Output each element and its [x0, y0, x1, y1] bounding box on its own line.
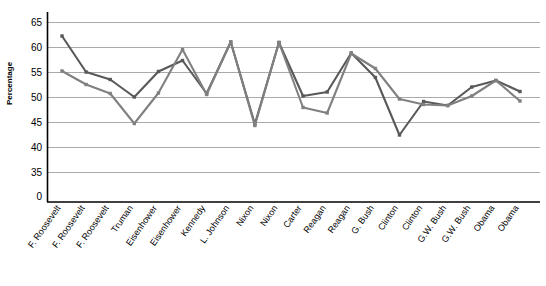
data-series-layer	[60, 34, 521, 136]
series-line	[62, 42, 520, 126]
y-axis-tick-label: 40	[31, 142, 43, 153]
y-axis-tick-label: 50	[31, 92, 43, 103]
x-axis-tick-label: Carter	[281, 203, 304, 229]
data-point-marker	[470, 85, 473, 88]
data-point-marker	[277, 41, 280, 44]
data-point-marker	[84, 83, 87, 86]
data-point-marker	[133, 122, 136, 125]
y-axis-ticks: 035404550556065	[31, 17, 43, 202]
data-point-marker	[109, 92, 112, 95]
data-point-marker	[374, 67, 377, 70]
y-axis-tick-label: 45	[31, 117, 43, 128]
data-point-marker	[60, 69, 63, 72]
data-point-marker	[157, 91, 160, 94]
chart-container: Percentage 035404550556065 F. RooseveltF…	[0, 0, 546, 286]
y-axis-tick-label: 0	[36, 191, 42, 202]
data-point-marker	[398, 133, 401, 136]
y-axis-title: Percentage	[5, 61, 14, 105]
x-axis-tick-label: G. Bush	[349, 203, 376, 235]
y-axis-tick-label: 65	[31, 17, 43, 28]
data-point-marker	[205, 93, 208, 96]
line-chart: Percentage 035404550556065 F. RooseveltF…	[0, 0, 546, 286]
data-point-marker	[374, 76, 377, 79]
data-point-marker	[301, 106, 304, 109]
data-point-marker	[109, 78, 112, 81]
data-point-marker	[350, 52, 353, 55]
data-point-marker	[133, 95, 136, 98]
data-point-marker	[325, 90, 328, 93]
data-point-marker	[157, 70, 160, 73]
x-axis-tick-label: Clinton	[400, 203, 424, 232]
data-point-marker	[325, 111, 328, 114]
x-axis-tick-label: Obama	[471, 203, 496, 233]
data-point-marker	[60, 34, 63, 37]
x-axis-tick-label: Obama	[496, 203, 521, 233]
data-point-marker	[446, 104, 449, 107]
data-point-marker	[422, 103, 425, 106]
data-point-marker	[422, 100, 425, 103]
x-axis-tick-label: Reagan	[302, 203, 328, 235]
data-point-marker	[253, 124, 256, 127]
data-point-marker	[229, 40, 232, 43]
data-point-marker	[301, 94, 304, 97]
data-point-marker	[398, 97, 401, 100]
data-series	[60, 40, 521, 127]
data-series	[60, 34, 521, 136]
data-point-marker	[84, 70, 87, 73]
data-point-marker	[494, 79, 497, 82]
y-axis-tick-label: 35	[31, 167, 43, 178]
y-axis-tick-label: 55	[31, 67, 43, 78]
x-axis-tick-label: Nixon	[258, 203, 279, 228]
x-axis-tick-label: Nixon	[234, 203, 255, 228]
y-axis-title-label: Percentage	[5, 61, 14, 105]
data-point-marker	[181, 59, 184, 62]
y-axis-tick-label: 60	[31, 42, 43, 53]
x-axis-category-labels: F. RooseveltF. RooseveltF. RooseveltTrum…	[26, 203, 521, 250]
x-axis-tick-label: Clinton	[376, 203, 400, 232]
data-point-marker	[518, 99, 521, 102]
x-axis-tick-label: Truman	[109, 203, 135, 234]
data-point-marker	[181, 48, 184, 51]
data-point-marker	[518, 90, 521, 93]
data-point-marker	[470, 94, 473, 97]
